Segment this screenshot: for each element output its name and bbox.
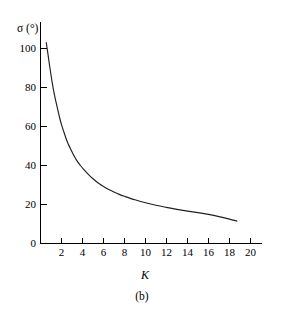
figure-caption: (b): [135, 290, 149, 303]
x-tick-label-6: 6: [101, 246, 107, 258]
figure-panel: 100 80 60 40 20 0 2 4 6 8 10 12 14 16 18…: [0, 0, 285, 309]
x-tick-label-2: 2: [59, 246, 65, 258]
x-tick-label-12: 12: [161, 246, 172, 258]
x-tick-label-8: 8: [122, 246, 128, 258]
x-tick-label-20: 20: [245, 246, 257, 258]
y-tick-label-80: 80: [25, 81, 37, 93]
y-tick-label-0: 0: [31, 237, 37, 249]
data-curve-sigma-vs-k: [46, 43, 237, 221]
y-tick-label-40: 40: [25, 159, 37, 171]
x-tick-label-16: 16: [203, 246, 215, 258]
x-axis-ticks: [62, 238, 251, 244]
y-tick-label-60: 60: [25, 120, 37, 132]
x-tick-label-10: 10: [140, 246, 152, 258]
y-axis-ticks: [41, 49, 47, 205]
x-tick-label-18: 18: [224, 246, 236, 258]
y-axis-title: σ (°): [17, 22, 39, 35]
x-axis-title: K: [140, 268, 150, 282]
y-tick-label-20: 20: [25, 198, 37, 210]
chart-canvas: 100 80 60 40 20 0 2 4 6 8 10 12 14 16 18…: [0, 0, 285, 309]
x-tick-label-14: 14: [182, 246, 194, 258]
x-tick-label-4: 4: [80, 246, 86, 258]
y-tick-label-100: 100: [20, 42, 37, 54]
